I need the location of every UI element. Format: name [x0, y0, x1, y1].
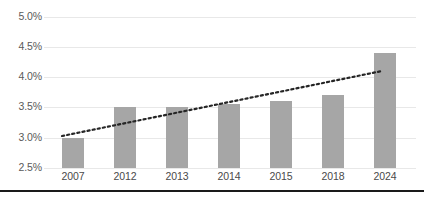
bar-2007	[62, 138, 84, 168]
y-tick-label-2.5: 2.5%	[6, 162, 42, 173]
plot-area: 5.0% 4.5% 4.0% 3.5% 3.0% 2.5% 2007 2012 …	[0, 0, 424, 204]
y-tick-label-3.5: 3.5%	[6, 101, 42, 112]
gridline-4.5	[44, 47, 416, 48]
x-tick-label-2014: 2014	[205, 170, 253, 182]
x-tick-label-2024: 2024	[361, 170, 409, 182]
gridline-4.0	[44, 77, 416, 78]
x-tick-label-2018: 2018	[309, 170, 357, 182]
y-tick-label-4.0: 4.0%	[6, 71, 42, 82]
bar-2018	[322, 95, 344, 168]
x-tick-label-2013: 2013	[153, 170, 201, 182]
bar-2024	[374, 53, 396, 168]
bar-2015	[270, 101, 292, 168]
bottom-divider	[0, 190, 424, 192]
bar-chart: 5.0% 4.5% 4.0% 3.5% 3.0% 2.5% 2007 2012 …	[0, 0, 424, 204]
x-tick-label-2007: 2007	[49, 170, 97, 182]
bar-2012	[114, 107, 136, 168]
gridline-5.0	[44, 17, 416, 18]
bar-2013	[166, 107, 188, 168]
x-tick-label-2012: 2012	[101, 170, 149, 182]
bar-2014	[218, 104, 240, 168]
y-tick-label-4.5: 4.5%	[6, 41, 42, 52]
x-tick-label-2015: 2015	[257, 170, 305, 182]
y-tick-label-5.0: 5.0%	[6, 11, 42, 22]
y-tick-label-3.0: 3.0%	[6, 132, 42, 143]
gridline-2.5	[44, 168, 416, 169]
